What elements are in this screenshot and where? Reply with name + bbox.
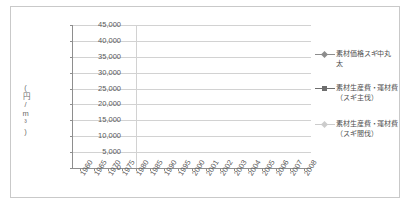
legend-entry-1[interactable]: 素材価格スギ中丸太 xyxy=(315,49,407,68)
vertical-gridline xyxy=(136,25,137,168)
legend-entry-3[interactable]: 素材生産費・運材費（スギ間伐） xyxy=(315,119,407,138)
legend-label: 素材価格スギ中丸太 xyxy=(335,49,407,68)
legend-label-line1: 素材生産費・運材費 xyxy=(336,119,407,129)
legend-label-line1: 素材生産費・運材費 xyxy=(336,83,407,93)
gridline xyxy=(73,73,311,74)
gridline xyxy=(73,89,311,90)
legend-marker-icon xyxy=(315,50,335,59)
gridline xyxy=(73,136,311,137)
legend-entry-2[interactable]: 素材生産費・運材費（スギ主伐） xyxy=(315,83,407,102)
gridline xyxy=(73,152,311,153)
legend-marker-icon xyxy=(315,84,335,93)
y-axis-line xyxy=(72,25,73,168)
chart-legend: 素材価格スギ中丸太素材生産費・運材費（スギ主伐）素材生産費・運材費（スギ間伐） xyxy=(315,27,407,165)
legend-label-line2: 太 xyxy=(336,59,407,69)
gridline xyxy=(73,25,311,26)
plot-background xyxy=(73,25,311,168)
legend-label: 素材生産費・運材費（スギ間伐） xyxy=(335,119,407,138)
legend-label: 素材生産費・運材費（スギ主伐） xyxy=(335,83,407,102)
gridline xyxy=(73,104,311,105)
gridline xyxy=(73,120,311,121)
legend-marker-icon xyxy=(315,120,335,129)
legend-label-line1: 素材価格スギ中丸 xyxy=(336,49,407,59)
y-axis-title: (円/m³) xyxy=(17,69,33,149)
gridline xyxy=(73,41,311,42)
gridline xyxy=(73,57,311,58)
chart-frame: (円/m³) 45,00040,00035,00030,00025,00020,… xyxy=(10,6,400,198)
legend-label-line2: （スギ間伐） xyxy=(336,129,407,139)
legend-label-line2: （スギ主伐） xyxy=(336,93,407,103)
plot-area xyxy=(73,25,311,168)
